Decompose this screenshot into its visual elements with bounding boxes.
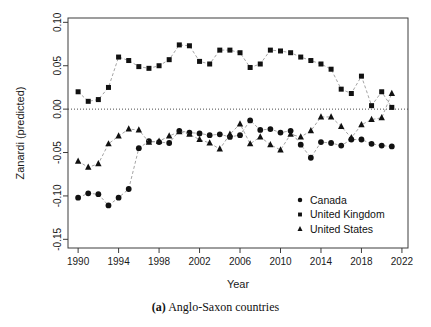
data-point-square <box>227 48 232 53</box>
x-tick-label: 2006 <box>229 256 252 267</box>
x-tick-label: 1990 <box>67 256 90 267</box>
data-point-square <box>359 74 364 79</box>
data-point-triangle <box>126 125 132 131</box>
data-point-square <box>278 48 283 53</box>
data-point-square <box>167 57 172 62</box>
data-point-square <box>126 58 131 63</box>
data-point-circle <box>136 145 142 151</box>
data-point-square <box>258 62 263 67</box>
data-point-square <box>106 85 111 90</box>
data-point-square <box>369 103 374 108</box>
caption-text: Anglo-Saxon countries <box>168 300 279 314</box>
x-tick-label: 2018 <box>350 256 373 267</box>
legend-label: Canada <box>310 194 347 206</box>
data-point-circle <box>217 131 223 137</box>
data-point-circle <box>85 190 91 196</box>
data-point-circle <box>379 143 385 149</box>
legend-label: United States <box>310 223 373 235</box>
data-point-square <box>308 58 313 63</box>
data-point-triangle <box>136 126 142 132</box>
data-point-triangle <box>75 157 81 163</box>
data-point-triangle <box>257 133 263 139</box>
legend-marker-square <box>298 213 302 217</box>
data-point-circle <box>257 127 263 133</box>
data-point-circle <box>237 132 243 138</box>
data-point-triangle <box>105 140 111 146</box>
data-point-circle <box>298 142 304 148</box>
data-point-circle <box>106 203 112 209</box>
data-point-circle <box>75 195 81 201</box>
data-point-square <box>207 62 212 67</box>
data-point-square <box>349 91 354 96</box>
x-tick-label: 2014 <box>310 256 333 267</box>
data-point-circle <box>197 131 203 137</box>
y-tick-label: -0.05 <box>52 141 63 164</box>
data-point-circle <box>389 144 395 150</box>
y-tick-label: -0.10 <box>52 184 63 207</box>
data-point-triangle <box>237 120 243 126</box>
data-point-circle <box>247 118 253 124</box>
data-point-square <box>318 62 323 67</box>
data-point-square <box>187 43 192 48</box>
chart-legend: CanadaUnited KingdomUnited States <box>298 194 385 235</box>
data-point-circle <box>338 143 344 149</box>
legend-label: United Kingdom <box>310 208 385 220</box>
x-tick-label: 1998 <box>148 256 171 267</box>
data-point-square <box>136 64 141 69</box>
data-point-circle <box>126 186 132 192</box>
data-point-square <box>217 48 222 53</box>
x-axis-tick-labels: 199019941998200220062010201420182022 <box>67 256 413 267</box>
caption-prefix: (a) <box>152 300 166 314</box>
data-point-square <box>379 89 384 94</box>
data-point-circle <box>166 140 172 146</box>
y-axis-ticks <box>63 22 68 239</box>
y-tick-label: 0.05 <box>52 56 63 76</box>
data-point-circle <box>95 191 101 197</box>
data-point-triangle <box>328 113 334 119</box>
figure-panel: 0.100.050.00-0.05-0.10-0.15 199019941998… <box>0 0 431 327</box>
data-point-triangle <box>318 113 324 119</box>
data-point-square <box>238 50 243 55</box>
chart-canvas: 0.100.050.00-0.05-0.10-0.15 199019941998… <box>0 0 431 327</box>
data-point-square <box>96 97 101 102</box>
data-point-circle <box>328 140 334 146</box>
x-tick-label: 1994 <box>107 256 130 267</box>
data-point-square <box>76 89 81 94</box>
data-point-triangle <box>267 141 273 147</box>
data-point-triangle <box>378 114 384 120</box>
data-point-circle <box>318 139 324 145</box>
x-tick-label: 2010 <box>269 256 292 267</box>
y-tick-label: -0.15 <box>52 227 63 250</box>
data-point-circle <box>359 137 365 143</box>
data-point-triangle <box>196 136 202 142</box>
data-point-circle <box>308 155 314 161</box>
data-point-triangle <box>85 164 91 170</box>
data-point-square <box>177 42 182 47</box>
data-point-triangle <box>389 90 395 96</box>
figure-caption: (a) Anglo-Saxon countries <box>0 300 431 315</box>
data-point-square <box>197 59 202 64</box>
data-point-circle <box>207 132 213 138</box>
data-point-square <box>389 105 394 110</box>
data-point-circle <box>116 195 122 201</box>
legend-marker-circle <box>298 198 303 203</box>
data-point-circle <box>278 130 284 136</box>
series-united-kingdom <box>76 42 395 109</box>
data-point-triangle <box>95 160 101 166</box>
x-axis-title: Year <box>227 278 250 290</box>
x-tick-label: 2022 <box>391 256 414 267</box>
x-tick-label: 2002 <box>188 256 211 267</box>
y-tick-label: 0.10 <box>52 12 63 32</box>
data-point-triangle <box>338 123 344 129</box>
data-point-square <box>248 65 253 70</box>
data-point-square <box>157 63 162 68</box>
data-point-triangle <box>217 145 223 151</box>
y-axis-tick-labels: 0.100.050.00-0.05-0.10-0.15 <box>52 12 63 251</box>
data-point-square <box>298 55 303 60</box>
data-point-square <box>116 55 121 60</box>
y-axis-title: Zanardi (predicted) <box>14 87 26 180</box>
x-axis-ticks <box>78 248 402 253</box>
series-united-states <box>75 90 395 170</box>
data-point-triangle <box>247 140 253 146</box>
data-point-circle <box>369 141 375 147</box>
